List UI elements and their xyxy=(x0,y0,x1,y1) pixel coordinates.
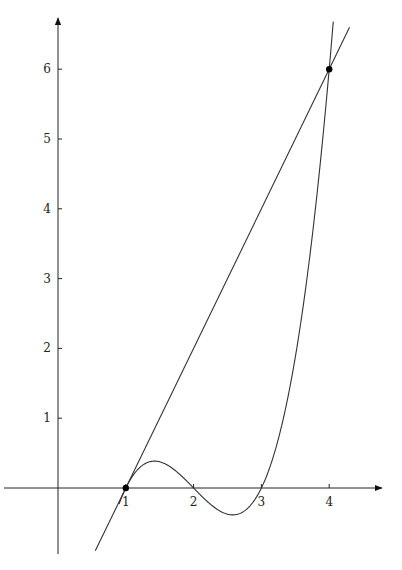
y-tick-label: 3 xyxy=(43,272,51,286)
intersection-point xyxy=(326,66,332,72)
y-tick-label: 4 xyxy=(43,202,51,216)
cubic-curve xyxy=(119,22,333,515)
tick-labels: 1234123456 xyxy=(43,62,333,509)
chart: 1234123456 xyxy=(0,0,402,570)
y-tick-label: 1 xyxy=(43,411,51,425)
axes xyxy=(4,18,382,554)
y-tick-label: 5 xyxy=(43,132,51,146)
intersection-point xyxy=(123,485,129,491)
y-tick-label: 2 xyxy=(43,341,51,355)
plot-area xyxy=(95,22,349,551)
secant-line xyxy=(95,27,349,551)
x-tick-label: 3 xyxy=(258,495,266,509)
x-tick-label: 4 xyxy=(325,495,333,509)
x-tick-label: 1 xyxy=(122,495,130,509)
y-tick-label: 6 xyxy=(43,62,51,76)
x-tick-label: 2 xyxy=(190,495,198,509)
